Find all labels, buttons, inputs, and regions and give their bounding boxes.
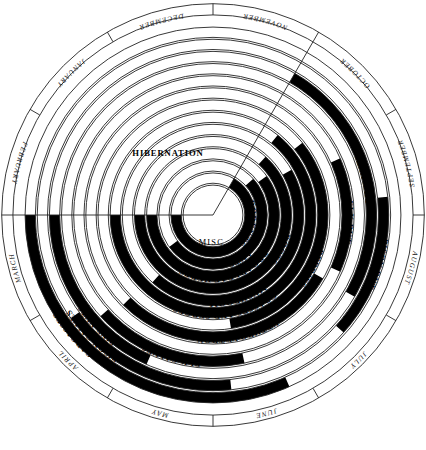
month-label-june: JUNE [255,406,278,419]
month-label-march: MARCH [7,252,23,284]
month-divider [386,315,396,321]
month-divider [30,109,40,115]
month-divider [107,388,113,398]
wheel-svg: DECEMBERJANUARYFEBRUARYMARCHAPRILMAYJUNE… [0,0,426,450]
month-divider [313,388,319,398]
month-label-november: NOVEMBER [242,12,290,32]
month-divider [107,32,113,42]
hibernation-label: HIBERNATION [132,148,203,158]
month-divider [386,109,396,115]
month-label-october: OCTOBER [338,56,372,90]
month-divider [30,315,40,321]
month-label-january: JANUARY [55,57,87,89]
bear-food-cycle-wheel: DECEMBERJANUARYFEBRUARYMARCHAPRILMAYJUNE… [0,0,426,450]
month-label-august: AUGUST [402,250,419,286]
center-misc-label: MISC. [199,238,228,247]
food-labels-layer: RODENTSANTSBROADLEAF HERBSROOTSMUSHROOMS… [0,0,390,369]
month-label-september: SEPTEMBER [396,138,416,188]
month-divider [313,32,319,42]
